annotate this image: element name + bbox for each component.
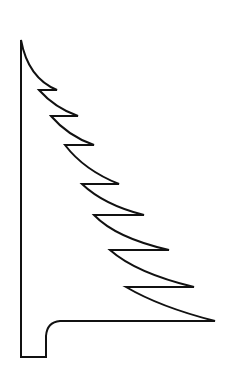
tree-outline-path <box>21 40 215 357</box>
diagram-canvas <box>0 0 234 380</box>
tree-outline-drawing <box>0 0 234 380</box>
